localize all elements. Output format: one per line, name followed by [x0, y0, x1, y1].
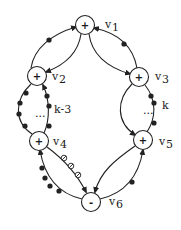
svg-text:v: v: [158, 135, 166, 148]
svg-text:+: +: [81, 20, 89, 31]
svg-text:+: +: [33, 71, 41, 82]
ellipsis-left: ...: [35, 107, 46, 120]
svg-text:v: v: [104, 18, 112, 31]
edge-v1-v3: [89, 34, 130, 74]
svg-text:+: +: [35, 136, 43, 147]
svg-text:-: -: [89, 197, 93, 208]
edge-v6-v5: [100, 150, 143, 199]
edge-v5-v6: [95, 146, 135, 192]
edge-v3-v5-outer: [120, 84, 135, 135]
svg-text:6: 6: [116, 198, 123, 211]
svg-text:+: +: [135, 72, 143, 83]
svg-text:4: 4: [60, 138, 67, 151]
ellipsis-right: ...: [143, 104, 154, 117]
svg-text:2: 2: [59, 73, 66, 86]
svg-text:1: 1: [112, 21, 119, 34]
svg-text:+: +: [139, 135, 147, 146]
svg-text:3: 3: [162, 73, 169, 86]
node-v5: + v 5: [134, 131, 174, 152]
svg-text:v: v: [52, 135, 60, 148]
node-v6: - v 6: [82, 193, 124, 212]
label-k: k: [162, 99, 169, 112]
edge-v2-v1: [31, 27, 76, 68]
edge-v4-v6: [47, 147, 86, 192]
node-v3: + v 3: [130, 68, 170, 87]
svg-text:5: 5: [166, 138, 173, 151]
svg-text:v: v: [108, 195, 116, 208]
node-v1: + v 1: [76, 16, 120, 35]
edge-v3-v1: [94, 28, 137, 68]
svg-text:v: v: [51, 70, 59, 83]
node-v2: + v 2: [28, 67, 67, 87]
svg-text:v: v: [154, 70, 162, 83]
signed-digraph: + v 1 + v 2 + v 3 + v 4 + v 5 - v 6 k-3 …: [0, 0, 181, 230]
hollow-crossed-dots: [61, 155, 81, 178]
label-k-minus-3: k-3: [54, 103, 71, 116]
